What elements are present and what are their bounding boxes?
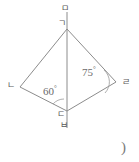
diagram-canvas <box>0 0 139 162</box>
vertex-label-bottom: ㄷ <box>57 110 65 119</box>
vertex-label-left: ㄴ <box>7 81 15 90</box>
axis-top-label: ㅁ <box>61 4 69 13</box>
angle-60-degree-symbol: ° <box>54 84 57 92</box>
closing-paren-mark: ) <box>121 140 126 155</box>
geometry-figure: ㅁ ㅂ ㄱ ㄴ ㄹ ㄷ 60° 75° ) <box>0 0 139 162</box>
vertex-label-right: ㄹ <box>122 78 130 87</box>
angle-label-75: 75° <box>82 66 96 78</box>
axis-bottom-label: ㅂ <box>60 121 68 130</box>
angle-60-value: 60 <box>43 85 54 97</box>
angle-label-60: 60° <box>43 85 57 97</box>
angle-arc-bottom <box>53 99 64 104</box>
edge-apex-to-left <box>20 29 67 87</box>
angle-75-value: 75 <box>82 66 93 78</box>
angle-75-degree-symbol: ° <box>93 65 96 73</box>
vertex-label-apex: ㄱ <box>58 19 66 28</box>
